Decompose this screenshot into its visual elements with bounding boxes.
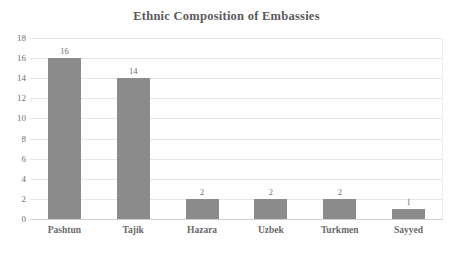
x-axis: PashtunTajikHazaraUzbekTurkmenSayyed [30, 224, 443, 244]
y-axis-tick-label: 12 [2, 94, 26, 103]
gridline [30, 139, 443, 140]
gridline [30, 118, 443, 119]
bar[interactable] [186, 199, 219, 219]
gridline [30, 159, 443, 160]
x-axis-category-label: Hazara [168, 224, 237, 236]
plot-right-border [442, 38, 443, 219]
y-axis-tick-label: 16 [2, 54, 26, 63]
y-axis-tick-label: 6 [2, 155, 26, 164]
chart-title: Ethnic Composition of Embassies [0, 9, 453, 23]
plot-area: 16142221 [30, 38, 443, 219]
x-axis-category-label: Sayyed [374, 224, 443, 236]
bar-slot: 2 [254, 38, 287, 219]
y-axis-tick-label: 18 [2, 34, 26, 43]
y-axis-tick-label: 8 [2, 135, 26, 144]
y-axis-tick-label: 10 [2, 114, 26, 123]
bar-slot: 1 [392, 38, 425, 219]
bar-value-label: 1 [392, 198, 425, 207]
x-axis-category-label: Uzbek [237, 224, 306, 236]
bar-slot: 2 [323, 38, 356, 219]
bar-value-label: 2 [323, 188, 356, 197]
gridline [30, 98, 443, 99]
x-axis-category-label: Turkmen [305, 224, 374, 236]
gridline [30, 78, 443, 79]
gridline [30, 58, 443, 59]
gridline [30, 219, 443, 220]
bar-value-label: 2 [186, 188, 219, 197]
bar-value-label: 14 [117, 67, 150, 76]
gridline [30, 199, 443, 200]
bar-slot: 16 [48, 38, 81, 219]
bar[interactable] [323, 199, 356, 219]
x-axis-category-label: Pashtun [30, 224, 99, 236]
y-axis-tick-label: 2 [2, 195, 26, 204]
bar[interactable] [254, 199, 287, 219]
bar[interactable] [117, 78, 150, 219]
bar[interactable] [48, 58, 81, 219]
bar-value-label: 16 [48, 47, 81, 56]
bar-slot: 2 [186, 38, 219, 219]
bar-slot: 14 [117, 38, 150, 219]
y-axis-tick-label: 14 [2, 74, 26, 83]
bar-value-label: 2 [254, 188, 287, 197]
y-axis-tick-label: 0 [2, 215, 26, 224]
x-axis-category-label: Tajik [99, 224, 168, 236]
y-axis-tick-label: 4 [2, 175, 26, 184]
y-axis: 181614121086420 [0, 38, 26, 219]
bar-chart: Ethnic Composition of Embassies 18161412… [0, 0, 453, 261]
gridline [30, 38, 443, 39]
gridline [30, 179, 443, 180]
bar[interactable] [392, 209, 425, 219]
